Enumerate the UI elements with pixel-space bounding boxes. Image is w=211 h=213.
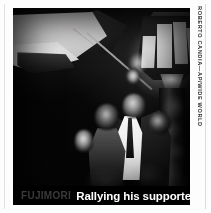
news-photograph: FUJIMORI Rallying his supporters bbox=[13, 8, 190, 205]
photo-credit: ROBERTO CANDIA—AP/WIDE WORLD bbox=[192, 6, 206, 166]
caption-bar: FUJIMORI Rallying his supporters bbox=[13, 186, 190, 205]
left-rule bbox=[4, 4, 5, 209]
caption-title: Rallying his supporters bbox=[76, 190, 190, 202]
photo-credit-text: ROBERTO CANDIA—AP/WIDE WORLD bbox=[197, 6, 203, 127]
photo-page: FUJIMORI Rallying his supporters ROBERTO… bbox=[0, 0, 211, 213]
caption-kicker: FUJIMORI bbox=[21, 190, 71, 201]
photo-vignette bbox=[13, 8, 190, 205]
